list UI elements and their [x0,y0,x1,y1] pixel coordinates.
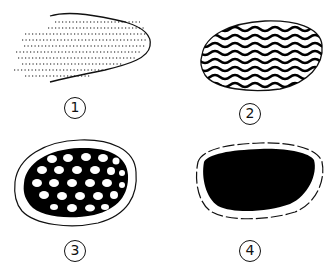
panel-2-wavy-lines [190,15,330,95]
solid-blob-icon [190,140,330,225]
panel-1-fine-dashes [10,8,160,88]
wavy-blob-icon [190,15,330,95]
panel-4-solid-black [190,140,330,225]
fine-dash-blob-icon [10,8,160,88]
panel-1-number-label: 1 [64,97,86,119]
panel-2-number-label: 2 [239,103,261,125]
panel-3-black-with-holes [10,137,140,232]
panel-4-number-label: 4 [239,240,261,262]
perforated-blob-icon [10,137,140,232]
panel-3-number-label: 3 [64,240,86,262]
